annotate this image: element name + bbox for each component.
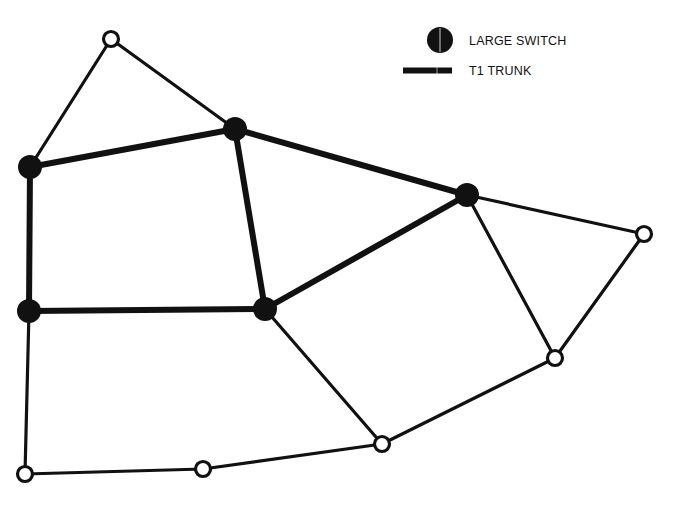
legend-large-switch: LARGE SWITCH: [427, 27, 567, 53]
link-n5-n6: [25, 469, 203, 474]
t1-trunk-icon: [403, 68, 452, 74]
large-switch-node-s3: [455, 183, 479, 207]
legend-large-switch-label: LARGE SWITCH: [469, 34, 567, 48]
large-switch-node-s5: [253, 297, 277, 321]
legend-t1-trunk: T1 TRUNK: [403, 64, 532, 78]
small-node-n3: [548, 351, 563, 366]
small-node-n4: [375, 437, 390, 452]
link-n1-s2: [111, 39, 235, 129]
t1-trunk-link-s4-s5: [29, 309, 265, 311]
link-n3-n4: [382, 358, 555, 444]
link-s4-n6: [25, 311, 29, 474]
t1-trunk-link-s2-s3: [235, 129, 467, 195]
t1-trunk-link-s1-s2: [30, 129, 235, 167]
legend: LARGE SWITCH T1 TRUNK: [403, 27, 567, 78]
large-switch-node-s4: [17, 299, 41, 323]
large-switch-node-s2: [223, 117, 247, 141]
t1-trunk-link-s5-s3: [265, 195, 467, 309]
link-s5-n4: [265, 309, 382, 444]
legend-t1-trunk-label: T1 TRUNK: [469, 64, 532, 78]
small-node-n2: [637, 227, 652, 242]
large-switch-node-s1: [18, 155, 42, 179]
small-node-n6: [18, 467, 33, 482]
link-n2-n3: [555, 234, 644, 358]
link-s3-n3: [467, 195, 555, 358]
nodes-layer: [17, 32, 652, 482]
small-node-n1: [104, 32, 119, 47]
link-n4-n5: [203, 444, 382, 469]
t1-trunk-link-s2-s5: [235, 129, 265, 309]
small-node-n5: [196, 462, 211, 477]
link-s3-n2: [467, 195, 644, 234]
link-n1-s1: [30, 39, 111, 167]
t1-trunk-link-s1-s4: [29, 167, 30, 311]
network-diagram: LARGE SWITCH T1 TRUNK: [0, 0, 673, 523]
links-layer: [25, 39, 644, 474]
